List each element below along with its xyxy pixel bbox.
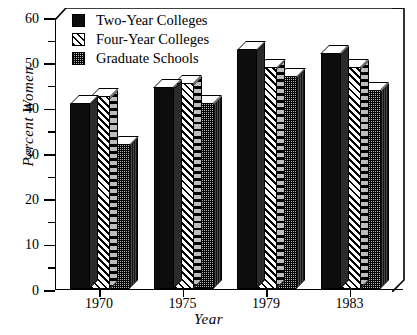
bar-front-face bbox=[155, 88, 173, 288]
y-axis-minor-tick bbox=[48, 267, 55, 268]
chart-legend: Two-Year Colleges Four-Year Colleges Gra… bbox=[72, 12, 209, 69]
y-axis-tick-label: 40 bbox=[25, 101, 44, 117]
y-axis-tick: 30 bbox=[44, 154, 55, 156]
legend-swatch-stipple-icon bbox=[72, 52, 85, 65]
y-axis-tick: 50 bbox=[44, 63, 55, 65]
y-axis-tick-label: 30 bbox=[25, 147, 44, 163]
y-axis-tick: 20 bbox=[44, 199, 55, 201]
y-axis-tick: 10 bbox=[44, 245, 55, 247]
bar-side-face bbox=[213, 96, 222, 289]
y-axis-minor-tick bbox=[48, 222, 55, 223]
bar bbox=[321, 53, 341, 289]
bar-side-face bbox=[256, 42, 265, 289]
bar-side-face bbox=[89, 96, 98, 289]
y-axis-minor-tick bbox=[48, 177, 55, 178]
y-axis-tick-label: 50 bbox=[25, 56, 44, 72]
bar-front-face bbox=[71, 104, 89, 288]
legend-item-graduate: Graduate Schools bbox=[72, 50, 209, 67]
bar-side-face bbox=[296, 69, 305, 289]
y-axis-tick-label: 60 bbox=[25, 11, 44, 27]
bar-front-face bbox=[238, 50, 256, 288]
legend-swatch-hatch-icon bbox=[72, 33, 85, 46]
bar-side-face bbox=[340, 46, 349, 289]
y-axis-minor-tick bbox=[48, 131, 55, 132]
y-axis-tick: 0 bbox=[44, 290, 55, 292]
legend-label: Four-Year Colleges bbox=[96, 32, 209, 47]
bar-chart: Percent Women 0102030405060 197019751979… bbox=[0, 0, 417, 335]
y-axis-tick-label: 0 bbox=[32, 283, 44, 299]
bar-side-face bbox=[380, 83, 389, 289]
bar bbox=[154, 87, 174, 289]
bar-front-face bbox=[322, 54, 340, 288]
bar bbox=[70, 103, 90, 289]
y-axis-tick-label: 20 bbox=[25, 192, 44, 208]
legend-item-four-year: Four-Year Colleges bbox=[72, 31, 209, 48]
bar bbox=[237, 49, 257, 289]
bar-side-face bbox=[109, 90, 118, 290]
x-axis-category-label: 1979 bbox=[252, 296, 280, 312]
bar-side-face bbox=[173, 80, 182, 289]
x-axis-category-label: 1983 bbox=[336, 296, 364, 312]
legend-label: Two-Year Colleges bbox=[96, 13, 207, 28]
bar-side-face bbox=[193, 76, 202, 289]
bar-side-face bbox=[129, 137, 138, 289]
legend-swatch-solid-icon bbox=[72, 14, 85, 27]
bar-side-face bbox=[276, 60, 285, 289]
y-axis-tick: 40 bbox=[44, 109, 55, 111]
y-axis-tick-label: 10 bbox=[25, 237, 44, 253]
legend-item-two-year: Two-Year Colleges bbox=[72, 12, 209, 29]
legend-label: Graduate Schools bbox=[96, 51, 199, 66]
x-axis-category-label: 1970 bbox=[85, 296, 113, 312]
y-axis-tick: 60 bbox=[44, 18, 55, 20]
bar-side-face bbox=[360, 60, 369, 289]
y-axis-minor-tick bbox=[48, 41, 55, 42]
y-axis-minor-tick bbox=[48, 86, 55, 87]
x-axis-category-label: 1975 bbox=[169, 296, 197, 312]
x-axis-title: Year bbox=[0, 311, 417, 328]
